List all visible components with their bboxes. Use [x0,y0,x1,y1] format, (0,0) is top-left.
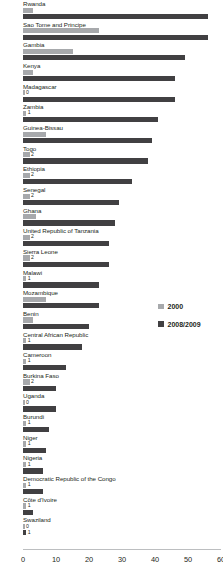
bar-row[interactable]: 1 [23,503,223,508]
bar-2008-2009 [23,365,66,370]
bar-value-label: 1 [28,276,31,281]
bar-row[interactable]: 29 [23,200,223,205]
bar-2000 [23,173,30,178]
bar-row[interactable]: 2 [23,255,223,260]
bar-2008-2009 [23,55,185,60]
bar-row[interactable]: 0 [23,400,223,405]
bar-group: United Republic of Tanzania226 [0,227,223,248]
bar-value-label: 1 [28,462,31,467]
bar-value-label: 2 [31,235,34,240]
bar-row[interactable]: 1 [23,483,223,488]
bar-row[interactable]: 2 [23,235,223,240]
bar-row[interactable]: 1 [23,530,223,535]
bar-group: Rwanda356 [0,0,223,21]
bar-value-label: 29 [216,200,222,205]
bar-row[interactable]: 10 [23,386,223,391]
bar-value-label: 1 [28,530,31,535]
bar-row[interactable]: 1 [23,441,223,446]
bar-row[interactable]: 3 [23,70,223,75]
category-label: Rwanda [0,0,223,8]
bar-2008-2009 [23,510,33,515]
bar-row[interactable]: 0 [23,524,223,529]
bar-row[interactable]: 1 [23,421,223,426]
bar-value-label: 2 [31,255,34,260]
bar-row[interactable]: 1 [23,276,223,281]
bar-row[interactable]: 1 [23,359,223,364]
bar-row[interactable]: 7 [23,132,223,137]
bar-row[interactable]: 7 [23,448,223,453]
legend-item-2000[interactable]: 2000 [158,303,222,310]
bar-value-label: 1 [28,503,31,508]
bar-row[interactable]: 23 [23,282,223,287]
category-label: Gambia [0,41,223,49]
bar-2000 [23,379,30,384]
bar-row[interactable]: 23 [23,28,223,33]
bar-group: Gambia1549 [0,41,223,62]
bar-value-label: 28 [216,220,222,225]
bar-row[interactable]: 6 [23,468,223,473]
bar-row[interactable]: 46 [23,97,223,102]
category-label: Uganda [0,392,223,400]
bar-group: Zambia141 [0,103,223,124]
bar-2000 [23,421,26,426]
bar-2000 [23,8,33,13]
bar-row[interactable]: 10 [23,406,223,411]
bar-row[interactable]: 8 [23,427,223,432]
bar-row[interactable]: 2 [23,173,223,178]
bar-row[interactable]: 7 [23,297,223,302]
bar-row[interactable]: 56 [23,14,223,19]
bar-row[interactable]: 56 [23,35,223,40]
bar-2008-2009 [23,489,43,494]
bar-row[interactable]: 13 [23,365,223,370]
bar-value-label: 13 [216,365,222,370]
bar-row[interactable]: 4 [23,214,223,219]
bar-row[interactable]: 28 [23,220,223,225]
bar-row[interactable]: 18 [23,344,223,349]
bar-value-label: 38 [216,158,222,163]
bar-2000 [23,462,26,467]
bar-row[interactable]: 26 [23,241,223,246]
plot-area: Rwanda356Sao Tome and Principe2356Gambia… [0,0,223,546]
bar-row[interactable]: 2 [23,152,223,157]
bar-value-label: 0 [26,400,29,405]
x-axis: 0102030405060 [23,549,221,579]
bar-row[interactable]: 26 [23,262,223,267]
bar-row[interactable]: 46 [23,76,223,81]
bar-row[interactable]: 1 [23,111,223,116]
bar-row[interactable]: 33 [23,179,223,184]
category-label: Mozambique [0,289,223,297]
bar-value-label: 10 [216,406,222,411]
bar-row[interactable]: 0 [23,90,223,95]
bar-2008-2009 [23,158,148,163]
bar-row[interactable]: 15 [23,49,223,54]
bar-2008-2009 [23,97,175,102]
bar-row[interactable]: 39 [23,138,223,143]
bar-group: Côte d'Ivoire13 [0,496,223,517]
bar-group: Burkina Faso210 [0,372,223,393]
bar-row[interactable]: 2 [23,194,223,199]
bar-2008-2009 [23,262,109,267]
bar-row[interactable]: 3 [23,510,223,515]
bar-row[interactable]: 41 [23,117,223,122]
bar-row[interactable]: 38 [23,158,223,163]
bar-group: Cameroon113 [0,351,223,372]
bar-row[interactable]: 2 [23,379,223,384]
category-label: Guinea-Bissau [0,124,223,132]
x-tick-label: 0 [21,555,25,564]
bar-group: Malawi123 [0,269,223,290]
bar-group: Ethiopia233 [0,165,223,186]
x-tick-label: 10 [52,555,60,564]
bar-row[interactable]: 1 [23,338,223,343]
bar-row[interactable]: 49 [23,55,223,60]
bar-value-label: 2 [31,193,34,198]
bar-row[interactable]: 3 [23,8,223,13]
bar-group: Swaziland01 [0,516,223,537]
x-tick-label: 50 [184,555,192,564]
bar-value-label: 10 [216,386,222,391]
bar-2000 [23,49,73,54]
legend-item-2008-2009[interactable]: 2008/2009 [158,321,222,328]
category-label: Ghana [0,207,223,215]
bar-value-label: 6 [219,468,222,473]
bar-row[interactable]: 6 [23,489,223,494]
bar-row[interactable]: 1 [23,462,223,467]
